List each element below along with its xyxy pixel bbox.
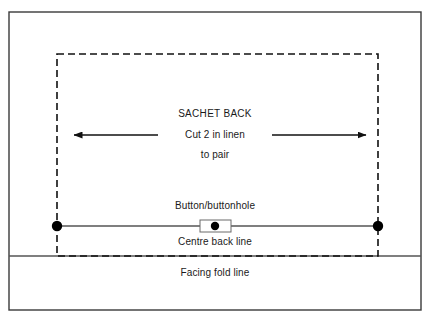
facing-fold-line-label: Facing fold line (181, 268, 250, 278)
button-buttonhole-dot (211, 222, 219, 230)
notch-dot-right (373, 221, 383, 231)
cut-instruction-label: Cut 2 in linen (185, 130, 245, 140)
button-buttonhole-label: Button/buttonhole (175, 201, 255, 211)
pattern-piece-name-label: SACHET BACK (178, 109, 252, 119)
pair-instruction-label: to pair (201, 150, 230, 160)
centre-back-line-label: Centre back line (178, 237, 252, 247)
outer-frame (9, 12, 421, 310)
pattern-diagram: SACHET BACK Cut 2 in linen to pair Butto… (0, 0, 429, 319)
notch-dot-left (52, 221, 62, 231)
